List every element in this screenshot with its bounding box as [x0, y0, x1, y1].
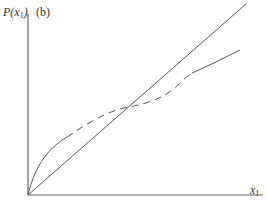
x-label-subscript: 1	[255, 189, 259, 198]
y-label-main: P(x	[3, 5, 20, 19]
x-axis-label: x1	[250, 184, 259, 200]
curve-solid-high	[192, 50, 240, 73]
diagonal-line	[28, 4, 246, 195]
phase-diagram	[0, 0, 267, 204]
panel-label: (b)	[36, 6, 50, 18]
curve-dashed-middle	[67, 73, 192, 137]
y-label-close: )	[24, 5, 28, 19]
y-axis-label: P(x1)	[3, 6, 28, 22]
